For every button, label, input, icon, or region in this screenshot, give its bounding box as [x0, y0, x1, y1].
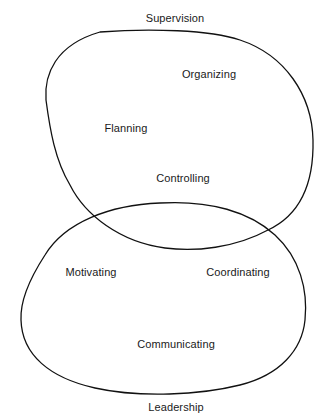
controlling-label: Controlling: [156, 172, 210, 184]
venn-shapes: [0, 0, 330, 417]
communicating-label: Communicating: [137, 338, 215, 350]
motivating-label: Motivating: [65, 266, 116, 278]
supervision-label: Supervision: [146, 12, 205, 24]
organizing-label: Organizing: [182, 68, 236, 80]
leadership-label: Leadership: [148, 401, 203, 413]
supervision-region: [46, 30, 313, 249]
planning-label: Flanning: [105, 122, 148, 134]
leadership-region: [21, 203, 306, 395]
coordinating-label: Coordinating: [206, 266, 270, 278]
